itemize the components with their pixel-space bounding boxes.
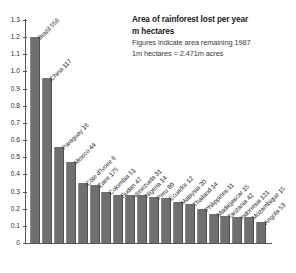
bar[interactable] — [78, 183, 88, 243]
bar-label: China 117 — [48, 58, 73, 83]
bar[interactable] — [137, 195, 147, 243]
bar[interactable] — [90, 185, 100, 243]
bar[interactable] — [149, 197, 159, 243]
bar[interactable] — [197, 209, 207, 243]
bar[interactable] — [101, 192, 111, 243]
bar[interactable] — [42, 78, 52, 243]
bar[interactable] — [161, 198, 171, 243]
bar-series: Brazil 556China 117Paraguay 16Mexico 44C… — [0, 0, 296, 273]
bar[interactable] — [30, 37, 40, 243]
bar[interactable] — [232, 217, 242, 243]
plot-area: 00.10.20.30.40.50.60.70.80.91.01.11.21.3… — [0, 0, 296, 273]
bar[interactable] — [173, 202, 183, 243]
bar[interactable] — [244, 217, 254, 243]
bar-label: Brazil 556 — [36, 17, 60, 41]
bar[interactable] — [209, 214, 219, 243]
bar[interactable] — [66, 162, 76, 243]
bar[interactable] — [113, 195, 123, 243]
bar[interactable] — [185, 204, 195, 243]
bar[interactable] — [256, 222, 266, 243]
bar[interactable] — [220, 216, 230, 243]
bar-label: Mexico 44 — [72, 141, 97, 166]
bar[interactable] — [125, 195, 135, 243]
chart-page: Area of rainforest lost per year m hecta… — [0, 0, 296, 273]
bar[interactable] — [54, 147, 64, 243]
